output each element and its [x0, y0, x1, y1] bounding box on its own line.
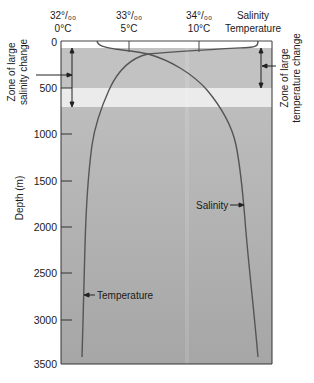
surface-band [61, 41, 272, 48]
right-zone-line1: Zone of large [279, 48, 290, 107]
ocean-profile-chart: 0 500 1000 1500 2000 2500 3000 3500 Dept… [0, 0, 314, 383]
temperature-curve-label: Temperature [97, 290, 154, 301]
left-zone-line2: salinity change [18, 38, 29, 105]
y-tick-2500: 2500 [34, 267, 58, 279]
plot-area [61, 41, 272, 364]
right-zone-line2: temperature change [291, 33, 302, 123]
y-tick-1000: 1000 [34, 128, 58, 140]
y-tick-0: 0 [51, 36, 57, 48]
deep-band [61, 107, 272, 364]
top-axis-labels: 32°/₀₀ 0°C 33°/₀₀ 5°C 34°/₀₀ 10°C Salini… [50, 10, 282, 34]
light-band [61, 88, 272, 107]
y-tick-3500: 3500 [34, 358, 58, 370]
top-tick-0-temp: 0°C [55, 23, 72, 34]
top-tick-32-salinity: 32°/₀₀ [50, 10, 76, 21]
y-axis-title: Depth (m) [14, 176, 25, 220]
y-tick-500: 500 [39, 82, 57, 94]
salinity-curve-label: Salinity [196, 200, 228, 211]
scan-streak [185, 48, 189, 364]
y-tick-3000: 3000 [34, 314, 58, 326]
salinity-axis-header: Salinity [237, 10, 269, 21]
top-tick-10-temp: 10°C [188, 23, 210, 34]
top-tick-33-salinity: 33°/₀₀ [116, 10, 142, 21]
y-tick-1500: 1500 [34, 175, 58, 187]
y-tick-labels: 0 500 1000 1500 2000 2500 3000 3500 [34, 36, 58, 370]
top-tick-5-temp: 5°C [121, 23, 138, 34]
top-tick-34-salinity: 34°/₀₀ [186, 10, 212, 21]
temperature-axis-header: Temperature [225, 23, 282, 34]
thermocline-band [61, 48, 272, 88]
left-zone-line1: Zone of large [6, 42, 17, 101]
y-tick-2000: 2000 [34, 221, 58, 233]
